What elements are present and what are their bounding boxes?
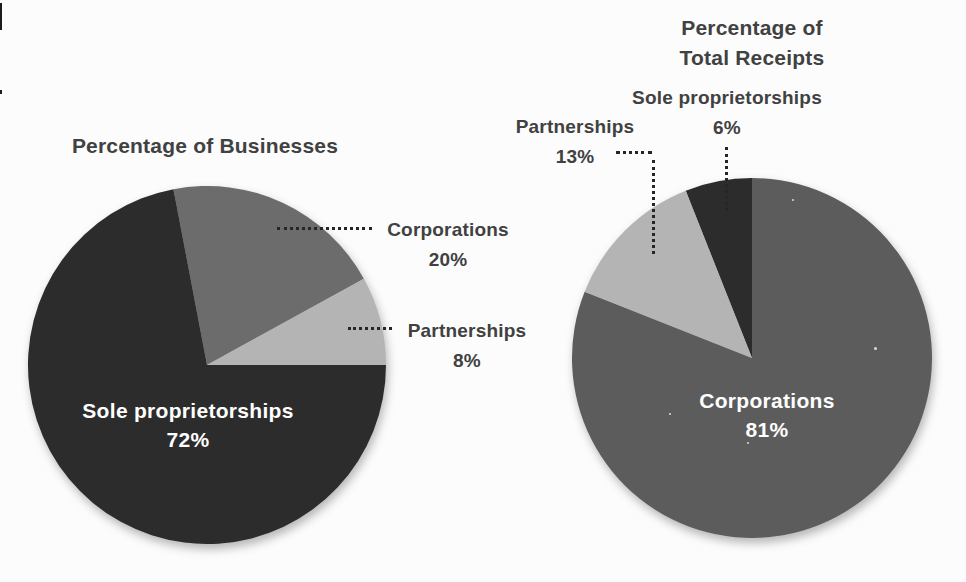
paper-speck xyxy=(874,347,877,350)
slice-value-text: 20% xyxy=(376,245,520,275)
slice-label-corporations: Corporations 20% xyxy=(376,215,520,275)
leader-line-corporations xyxy=(277,227,372,230)
slice-label-text: Corporations xyxy=(602,386,932,415)
pie-chart-total-receipts xyxy=(572,178,932,538)
leader-line-sole-proprietorships xyxy=(725,147,728,211)
slice-label-text: Partnerships xyxy=(503,112,647,142)
leader-line-partnerships xyxy=(652,160,655,254)
chart-title-businesses: Percentage of Businesses xyxy=(40,131,370,161)
paper-speck xyxy=(669,413,671,415)
slice-label-corporations: Corporations 81% xyxy=(602,386,932,444)
paper-speck xyxy=(792,199,794,201)
slice-label-partnerships: Partnerships 8% xyxy=(395,316,539,376)
slice-value-text: 72% xyxy=(38,425,338,454)
scan-artifact xyxy=(0,90,2,94)
paper-speck xyxy=(747,442,749,444)
slice-value-text: 8% xyxy=(395,346,539,376)
scan-artifact xyxy=(0,3,2,30)
slice-label-sole-proprietorships: Sole proprietorships 72% xyxy=(38,396,338,454)
slice-label-text: Corporations xyxy=(376,215,520,245)
pie-chart-businesses xyxy=(28,186,386,544)
leader-line-partnerships xyxy=(348,327,392,330)
slice-value-text: 81% xyxy=(602,415,932,444)
chart-title-total-receipts: Percentage of Total Receipts xyxy=(677,13,827,73)
slice-label-text: Sole proprietorships xyxy=(38,396,338,425)
slice-value-text: 13% xyxy=(503,142,647,172)
slice-label-text: Partnerships xyxy=(395,316,539,346)
slice-label-partnerships: Partnerships 13% xyxy=(503,112,647,172)
slice-label-sole-proprietorships: Sole proprietorships 6% xyxy=(616,83,838,143)
slice-label-text: Sole proprietorships xyxy=(616,83,838,113)
slice-value-text: 6% xyxy=(616,113,838,143)
figure-two-pie-charts: Percentage of Businesses Corporations 20… xyxy=(0,0,966,582)
